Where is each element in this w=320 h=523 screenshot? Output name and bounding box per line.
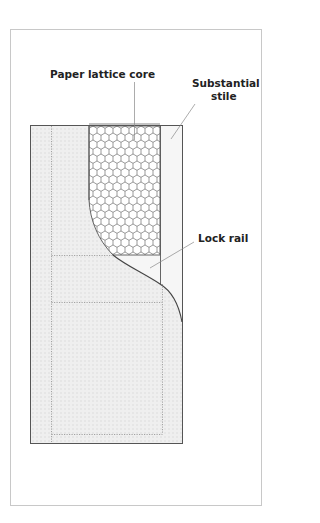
label-lock-rail: Lock rail	[198, 232, 248, 244]
paper-lattice-core	[89, 126, 160, 255]
label-substantial-stile-line2: stile	[211, 90, 237, 102]
label-paper-lattice-core: Paper lattice core	[50, 68, 155, 80]
label-substantial-stile-line1: Substantial	[192, 77, 260, 89]
